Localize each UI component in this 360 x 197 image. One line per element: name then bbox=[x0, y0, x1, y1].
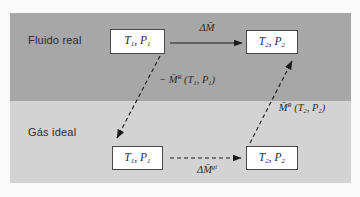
arrow-label-delta-m: ΔM̄ bbox=[200, 22, 215, 33]
state-box-ideal-1: T1, P1 bbox=[112, 146, 163, 170]
real-fluid-region bbox=[10, 13, 351, 101]
ideal-gas-region-label: Gás ideal bbox=[28, 126, 76, 138]
arrow-label-residual-2: M̄R (T2, P2) bbox=[279, 101, 325, 114]
state-label: T1, P1 bbox=[124, 151, 150, 165]
figure-root: { "figure": { "regions": [ {"name": "rea… bbox=[0, 0, 360, 197]
state-label: T1, P1 bbox=[124, 34, 150, 48]
arrow-label-delta-m-gi: ΔM̄gi bbox=[197, 163, 217, 175]
state-box-ideal-2: T2, P2 bbox=[246, 146, 298, 170]
real-fluid-region-label: Fluido real bbox=[28, 34, 82, 46]
state-box-real-1: T1, P1 bbox=[110, 29, 165, 54]
state-label: T2, P2 bbox=[259, 35, 285, 49]
state-box-real-2: T2, P2 bbox=[246, 30, 298, 54]
arrow-label-residual-1: − M̄R (T1, P1) bbox=[159, 73, 215, 86]
diagram-panel: Fluido real Gás ideal bbox=[10, 13, 351, 183]
state-label: T2, P2 bbox=[259, 151, 285, 165]
